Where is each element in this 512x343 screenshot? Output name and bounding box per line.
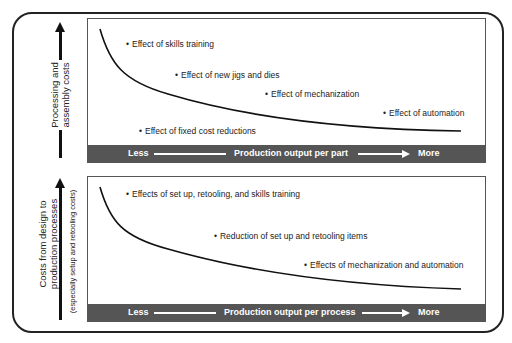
annotation-automation: Effect of automation [383,108,464,118]
lower-x-axis-bar: Less Production output per process More [88,304,485,321]
annotation-fixed-cost: Effect of fixed cost reductions [139,126,256,136]
upper-axis-line-right [358,153,404,155]
lower-axis-arrow-icon [402,309,410,317]
upper-y-label-line2: assembly costs [60,55,71,135]
annotation-mechanization: Effect of mechanization [265,89,359,99]
lower-axis-line-left [154,312,216,314]
upper-axis-arrow-icon [402,150,410,158]
annotation-jigs-dies: Effect of new jigs and dies [175,70,280,80]
annotation-skills-training: Effect of skills training [126,39,214,49]
upper-axis-label: Production output per part [234,148,348,158]
upper-chart-panel: Effect of skills training Effect of new … [87,18,486,163]
lower-y-axis-label: Costs from design to production processe… [37,184,59,304]
lower-axis-less: Less [128,307,149,317]
annotation-reduction-setup: Reduction of set up and retooling items [214,231,367,241]
lower-y-label-note: (especially setup and retooling costs) [67,187,78,317]
lower-y-arrow-shaft [59,186,62,320]
lower-axis-line-right [362,312,404,314]
lower-axis-label: Production output per process [224,307,356,317]
lower-axis-more: More [418,307,440,317]
upper-axis-line-left [154,153,226,155]
upper-x-axis-bar: Less Production output per part More [88,145,485,162]
lower-y-label-line1: Costs from design to [37,184,48,304]
upper-y-label-line1: Processing and [49,55,60,135]
lower-chart-panel: Effects of set up, retooling, and skills… [87,176,486,322]
upper-axis-less: Less [128,148,149,158]
upper-axis-more: More [418,148,440,158]
lower-y-axis-note: (especially setup and retooling costs) [67,187,78,317]
annotation-setup-retooling-skills: Effects of set up, retooling, and skills… [126,189,300,199]
annotation-mechanization-automation: Effects of mechanization and automation [304,260,463,270]
lower-y-label-line2: production processes [48,184,59,304]
upper-y-axis-label: Processing and assembly costs [49,55,71,135]
